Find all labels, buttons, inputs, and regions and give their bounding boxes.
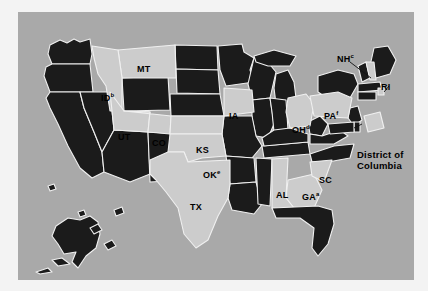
state-shape-mi-up — [254, 50, 296, 66]
state-label-ok-text: OK — [203, 170, 217, 180]
state-label-ga: GAa — [302, 192, 319, 202]
state-shape-dc — [364, 112, 384, 132]
state-label-id: IDb — [101, 93, 114, 103]
state-shape-ms — [256, 158, 272, 206]
state-label-ut: UT — [118, 132, 130, 142]
state-label-al-text: AL — [276, 190, 288, 200]
state-label-pa-text: PA — [324, 111, 336, 121]
state-label-nh-text: NH — [337, 54, 350, 64]
state-label-ok-sup: e — [217, 169, 221, 175]
us-map-panel: .dk { fill:#1b1b1b; stroke:#f0f0f0; stro… — [18, 12, 414, 280]
state-label-ok: OKe — [203, 170, 220, 180]
state-label-al: AL — [276, 190, 288, 200]
state-label-ga-sup: a — [316, 191, 320, 197]
state-shape-ct — [358, 92, 376, 100]
state-label-nh: NHc — [337, 54, 354, 64]
state-shape-ak-tail — [52, 258, 70, 266]
state-shape-hi-3 — [114, 207, 124, 216]
state-shape-wa — [48, 39, 92, 64]
state-shape-ne — [170, 94, 224, 116]
state-label-ri-text: RI — [381, 82, 390, 92]
state-label-ri: RI — [381, 82, 390, 92]
state-label-ia-text: IA — [229, 111, 238, 121]
state-label-oh: OHd — [292, 125, 310, 135]
state-shape-nc — [310, 144, 354, 162]
state-label-co-text: CO — [152, 138, 166, 148]
callout-dc-line1: District of — [357, 149, 414, 160]
state-label-ut-text: UT — [118, 132, 130, 142]
state-shape-hi-1 — [104, 240, 116, 250]
state-label-co: CO — [152, 138, 166, 148]
state-shape-ks — [170, 116, 224, 134]
state-shape-hi-5 — [48, 184, 56, 191]
us-map-graphic: .dk { fill:#1b1b1b; stroke:#f0f0f0; stro… — [18, 12, 414, 280]
state-label-sc: SC — [319, 175, 332, 185]
state-label-oh-text: OH — [292, 125, 306, 135]
state-shape-hi-4 — [78, 210, 86, 217]
figure-root: .dk { fill:#1b1b1b; stroke:#f0f0f0; stro… — [0, 0, 428, 291]
top-clipped-text — [0, 0, 428, 11]
callout-dc-line2: Columbia — [357, 160, 414, 171]
state-label-id-text: ID — [101, 93, 110, 103]
state-shape-fl — [272, 206, 334, 256]
state-shape-or — [44, 64, 93, 92]
state-label-id-sup: b — [110, 92, 114, 98]
state-shape-md — [328, 122, 354, 134]
state-shape-nd — [175, 45, 218, 70]
state-shape-wy — [122, 76, 170, 111]
state-label-ks-text: KS — [196, 145, 209, 155]
state-label-ia: IA — [229, 111, 238, 121]
state-label-mt: MT — [137, 64, 150, 74]
state-label-pa: PAf — [324, 111, 338, 121]
state-shape-sd — [176, 69, 220, 94]
state-label-ga-text: GA — [302, 192, 316, 202]
state-label-oh-sup: d — [306, 124, 310, 130]
state-shape-tx — [150, 152, 230, 248]
state-label-ks: KS — [196, 145, 209, 155]
state-label-nh-sup: c — [350, 53, 354, 59]
state-label-sc-text: SC — [319, 175, 332, 185]
state-label-tx-text: TX — [190, 202, 202, 212]
state-shape-ak-isl — [36, 268, 52, 274]
state-label-pa-sup: f — [336, 110, 338, 116]
state-shape-oh — [286, 94, 314, 128]
state-label-tx: TX — [190, 202, 202, 212]
callout-district-of-columbia: District of Columbia — [357, 149, 414, 171]
state-label-mt-text: MT — [137, 64, 150, 74]
